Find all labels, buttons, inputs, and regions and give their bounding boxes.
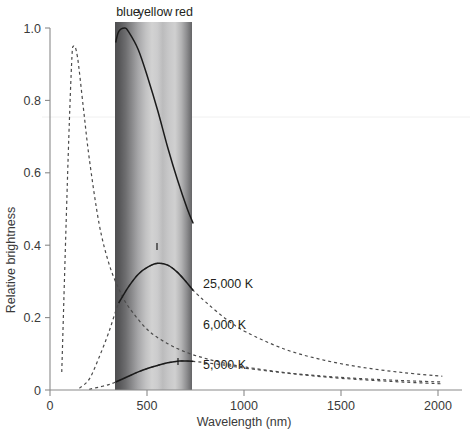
x-tick-label-2000: 2000 xyxy=(424,399,452,413)
curve-label-6000k: 6,000 K xyxy=(203,318,247,332)
curve-label-25000k: 25,000 K xyxy=(203,277,254,291)
y-tick-label-0.2: 0.2 xyxy=(24,311,41,325)
band-label-blue: blue xyxy=(116,5,140,19)
y-axis-title: Relative brightness xyxy=(4,207,18,313)
y-tick-label-1.0: 1.0 xyxy=(24,22,41,36)
band-label-yellow: yellow xyxy=(138,5,174,19)
band-label-red: red xyxy=(175,5,193,19)
x-tick-label-1000: 1000 xyxy=(230,399,258,413)
y-axis-ticks xyxy=(45,28,50,390)
chart-canvas: blue yellow red 0 0.2 0.4 0.6 0.8 1.0 Re… xyxy=(0,0,470,429)
x-tick-label-1500: 1500 xyxy=(327,399,355,413)
blackbody-radiation-chart: blue yellow red 0 0.2 0.4 0.6 0.8 1.0 Re… xyxy=(0,0,470,429)
y-tick-label-0.8: 0.8 xyxy=(24,94,41,108)
x-axis-title: Wavelength (nm) xyxy=(197,415,292,429)
curve-label-5000k: 5,000 K xyxy=(203,358,247,372)
y-tick-label-0: 0 xyxy=(34,384,41,398)
y-tick-label-0.4: 0.4 xyxy=(24,239,41,253)
y-tick-label-0.6: 0.6 xyxy=(24,166,41,180)
visible-spectrum-band xyxy=(115,22,192,390)
x-axis-ticks xyxy=(50,390,438,396)
x-tick-label-500: 500 xyxy=(137,399,158,413)
x-tick-label-0: 0 xyxy=(47,399,54,413)
